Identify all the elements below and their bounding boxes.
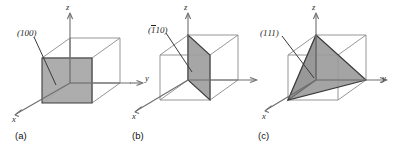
axis-label-y-b-left: y <box>145 74 149 83</box>
axis-label-x-a: x <box>12 115 16 124</box>
plane-label-b: (110) <box>148 25 168 35</box>
caption-a: (a) <box>15 131 27 141</box>
panel-b-drawing <box>130 0 262 150</box>
axis-label-z-c: z <box>312 3 315 12</box>
axis-label-x-c: x <box>262 112 266 121</box>
panel-a-drawing <box>0 0 132 150</box>
caption-c: (c) <box>258 131 269 141</box>
plane-110-shaded-face <box>188 35 210 100</box>
axis-label-y-c: y <box>382 74 386 83</box>
caption-b: (b) <box>132 131 144 141</box>
plane-label-a: (100) <box>17 29 37 38</box>
axis-label-x-b: x <box>132 112 136 121</box>
panel-c-111-plane: (111) z y x (c) <box>258 0 395 150</box>
panel-a-100-plane: (100) z x (a) <box>0 0 132 150</box>
axis-label-z-b: z <box>184 3 187 12</box>
miller-index-figure: (100) z x (a) <box>0 0 395 150</box>
plane-100-shaded-face <box>42 58 92 103</box>
panel-c-drawing <box>258 0 395 150</box>
plane-label-c: (111) <box>260 29 279 38</box>
axis-label-z-a: z <box>66 3 69 12</box>
panel-b-110-plane: (110) z y x (b) <box>130 0 262 150</box>
